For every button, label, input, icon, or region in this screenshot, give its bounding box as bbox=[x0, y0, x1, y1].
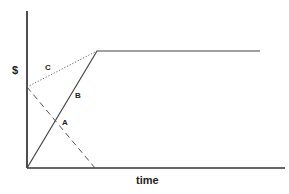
series-b-label: B bbox=[75, 91, 81, 100]
cost-time-diagram: $ C B A time bbox=[0, 0, 289, 194]
y-axis-label: $ bbox=[12, 64, 18, 76]
series-a-label: A bbox=[62, 118, 68, 127]
series-a-line bbox=[27, 87, 95, 168]
x-axis-label: time bbox=[136, 174, 159, 186]
series-c-label: C bbox=[45, 63, 51, 72]
